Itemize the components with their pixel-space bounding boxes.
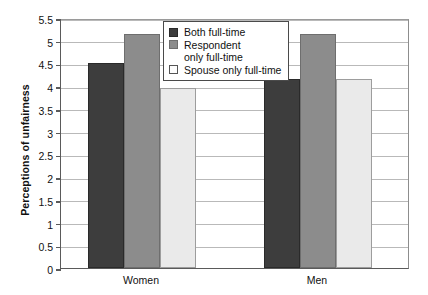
legend-item-both-full-time: Both full-time	[169, 26, 281, 39]
legend-label-spouse-only-full-time: Spouse only full-time	[184, 64, 281, 77]
y-tick-label: 3.5	[38, 105, 53, 117]
y-tick-mark	[56, 87, 61, 89]
y-tick-label: 2	[47, 173, 53, 185]
y-tick-label: 0.5	[38, 241, 53, 253]
bar	[336, 79, 372, 268]
legend-label-both-full-time: Both full-time	[184, 26, 245, 39]
y-tick-mark	[56, 110, 61, 112]
y-tick-label: 4	[47, 82, 53, 94]
x-axis-label: Women	[123, 274, 159, 286]
y-tick-mark	[56, 201, 61, 203]
y-axis-title: Perceptions of unfairness	[19, 40, 31, 260]
bar	[88, 63, 124, 268]
bar	[160, 88, 196, 268]
legend-item-respondent-only-full-time: Respondent	[169, 39, 281, 52]
y-tick-mark	[56, 42, 61, 44]
y-tick-mark	[56, 224, 61, 226]
y-tick-label: 3	[47, 128, 53, 140]
y-tick-label: 4.5	[38, 59, 53, 71]
legend-swatch-spouse-only-full-time	[169, 65, 178, 74]
y-tick-mark	[56, 65, 61, 67]
x-axis-label: Men	[307, 274, 327, 286]
legend: Both full-time Respondent only full-time…	[163, 21, 289, 81]
bar	[300, 34, 336, 268]
y-tick-mark	[56, 133, 61, 135]
y-tick-label: 2.5	[38, 150, 53, 162]
legend-swatch-both-full-time	[169, 28, 178, 37]
y-tick-label: 5	[47, 37, 53, 49]
legend-swatch-respondent-only-full-time	[169, 40, 178, 49]
bar	[264, 79, 300, 268]
y-tick-mark	[56, 19, 61, 21]
y-tick-label: 1	[47, 219, 53, 231]
y-tick-mark	[56, 156, 61, 158]
legend-label-respondent-only-full-time-line1: Respondent	[184, 39, 241, 52]
y-tick-mark	[56, 269, 61, 271]
legend-label-respondent-only-full-time-line2: only full-time	[184, 51, 243, 64]
y-tick-label: 5.5	[38, 14, 53, 26]
bar-chart: Perceptions of unfairness 00.511.522.533…	[0, 0, 428, 295]
y-tick-mark	[56, 178, 61, 180]
y-tick-label: 0	[47, 264, 53, 276]
y-tick-mark	[56, 247, 61, 249]
legend-item-spouse-only-full-time: Spouse only full-time	[169, 64, 281, 77]
y-tick-label: 1.5	[38, 196, 53, 208]
bar	[124, 34, 160, 268]
legend-item-respondent-only-full-time-cont: only full-time	[169, 51, 281, 64]
